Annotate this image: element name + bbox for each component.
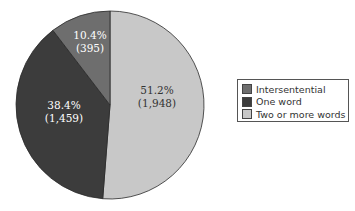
legend-label: Two or more words [256,109,346,120]
legend-swatch [242,84,252,94]
legend-item-one-word: One word [242,96,348,109]
legend: Intersentential One word Two or more wor… [237,79,349,122]
slice-percent: 51.2% [138,84,176,97]
slice-label-intersentential: 10.4% (395) [73,29,106,55]
legend-swatch [242,109,252,119]
slice-count: (1,459) [45,112,83,125]
slice-label-one-word: 38.4% (1,459) [45,99,83,125]
legend-item-two-or-more-words: Two or more words [242,108,348,121]
legend-swatch [242,97,252,107]
slice-percent: 38.4% [45,99,83,112]
slice-count: (1,948) [138,97,176,110]
legend-label: Intersentential [256,84,326,95]
slice-percent: 10.4% [73,29,106,42]
legend-label: One word [256,96,302,107]
slice-label-two-or-more-words: 51.2% (1,948) [138,84,176,110]
slice-count: (395) [73,42,106,55]
legend-item-intersentential: Intersentential [242,83,348,96]
